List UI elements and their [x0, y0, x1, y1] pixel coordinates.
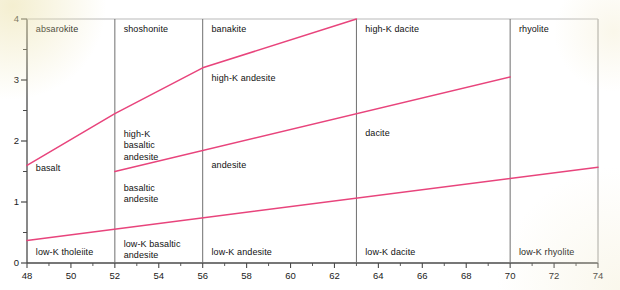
field-label-line: basaltic [124, 183, 159, 194]
field-label: basalt [36, 163, 61, 174]
y-axis-tick-label: 0 [3, 257, 19, 268]
x-axis-tick-label: 66 [413, 270, 431, 281]
field-label-line: basaltic [124, 140, 159, 151]
field-label: low-K rhyolite [519, 247, 574, 258]
field-label-line: low-K basaltic [124, 239, 181, 250]
field-label-line: absarokite [36, 24, 79, 35]
field-label-line: basalt [36, 163, 61, 174]
x-axis-tick-label: 56 [194, 270, 212, 281]
field-label-line: banakite [211, 24, 246, 35]
field-label-line: dacite [365, 128, 390, 139]
field-label-line: low-K dacite [365, 247, 415, 258]
field-label-line: andesite [124, 152, 159, 163]
x-axis-tick-label: 60 [282, 270, 300, 281]
x-axis-tick-label: 50 [62, 270, 80, 281]
field-label-line: andesite [124, 250, 181, 261]
x-axis-tick-label: 58 [238, 270, 256, 281]
y-axis-tick-label: 2 [3, 135, 19, 146]
field-label: high-Kbasalticandesite [124, 129, 159, 163]
x-axis-tick-label: 64 [369, 270, 387, 281]
field-label: banakite [211, 24, 246, 35]
x-axis-tick-label: 70 [501, 270, 519, 281]
field-label: low-K tholeiite [36, 247, 94, 258]
x-axis-tick-label: 74 [589, 270, 607, 281]
field-label: absarokite [36, 24, 79, 35]
field-label-line: high-K andesite [211, 73, 275, 84]
y-axis-tick-label: 4 [3, 13, 19, 24]
field-label-line: high-K dacite [365, 24, 419, 35]
field-label: shoshonite [124, 24, 169, 35]
field-label-line: low-K andesite [211, 247, 271, 258]
y-axis-tick-label: 1 [3, 196, 19, 207]
y-axis-tick-label: 3 [3, 74, 19, 85]
x-axis-tick-label: 52 [106, 270, 124, 281]
field-label: low-K andesite [211, 247, 271, 258]
field-label: rhyolite [519, 24, 549, 35]
field-label-line: low-K tholeiite [36, 247, 94, 258]
field-label: andesite [211, 160, 246, 171]
x-axis-tick-label: 48 [18, 270, 36, 281]
field-label: high-K andesite [211, 73, 275, 84]
field-label: low-K basalticandesite [124, 239, 181, 261]
field-label: high-K dacite [365, 24, 419, 35]
field-label-line: high-K [124, 129, 159, 140]
x-axis-tick-label: 68 [457, 270, 475, 281]
field-label: basalticandesite [124, 183, 159, 205]
x-axis-tick-label: 72 [545, 270, 563, 281]
field-label: dacite [365, 128, 390, 139]
field-label: low-K dacite [365, 247, 415, 258]
field-label-line: andesite [124, 194, 159, 205]
field-label-line: low-K rhyolite [519, 247, 574, 258]
x-axis-tick-label: 54 [150, 270, 168, 281]
field-label-line: shoshonite [124, 24, 169, 35]
field-label-line: rhyolite [519, 24, 549, 35]
field-label-line: andesite [211, 160, 246, 171]
x-axis-tick-label: 62 [325, 270, 343, 281]
